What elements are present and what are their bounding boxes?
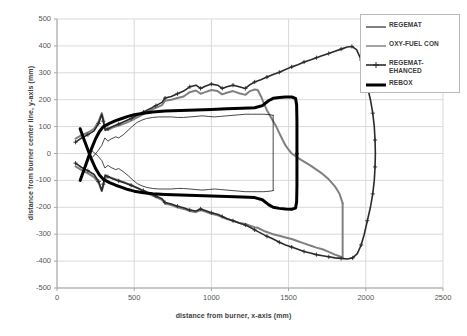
y-axis-title-rotator: distance from burner center line, y-axis… [27,23,41,263]
series-line-lower [80,129,297,209]
legend-item-label: REBOX [389,79,413,87]
legend-line-swatch [365,60,387,70]
y-axis-tick-label: 300 [21,68,51,77]
x-axis-tick-label: 500 [114,293,154,302]
chart-container: distance from burner center line, y-axis… [0,0,467,336]
legend-item[interactable]: REGEMAT- EHANCED [365,59,424,75]
legend-item[interactable]: OXY-FUEL CON [365,40,439,51]
legend-item[interactable]: REBOX [365,79,413,90]
x-axis-title: distance from burner, x-axis (mm) [0,312,467,319]
chart-legend: REGEMATOXY-FUEL CONREGEMAT- EHANCEDREBOX [360,14,460,93]
y-axis-tick-label: -100 [21,175,51,184]
series-regemat [76,89,343,257]
y-axis-tick-label: 200 [21,95,51,104]
y-axis-tick-label: 0 [21,149,51,158]
legend-item-label: OXY-FUEL CON [389,40,439,48]
y-axis-tick-label: 100 [21,122,51,131]
legend-item[interactable]: REGEMAT [365,21,422,32]
y-axis-title: distance from burner center line, y-axis… [27,23,34,263]
y-axis-tick-label: -500 [21,283,51,292]
legend-item-label: REGEMAT- EHANCED [389,59,424,75]
y-axis-tick-label: 400 [21,41,51,50]
x-axis-tick-label: 0 [37,293,77,302]
x-axis-tick-label: 1500 [269,293,309,302]
x-axis-tick-label: 2000 [346,293,386,302]
legend-line-swatch [365,80,387,90]
y-axis-tick-label: 500 [21,14,51,23]
y-axis-tick-label: -300 [21,229,51,238]
series-line [76,46,376,259]
x-axis-tick-label: 2500 [423,293,463,302]
y-axis-tick-label: -400 [21,256,51,265]
x-axis-tick-label: 1000 [191,293,231,302]
legend-item-label: REGEMAT [389,21,422,29]
legend-line-swatch [365,41,387,51]
series-regemat-ehanced [73,44,377,260]
y-axis-tick-label: -200 [21,202,51,211]
legend-line-swatch [365,22,387,32]
